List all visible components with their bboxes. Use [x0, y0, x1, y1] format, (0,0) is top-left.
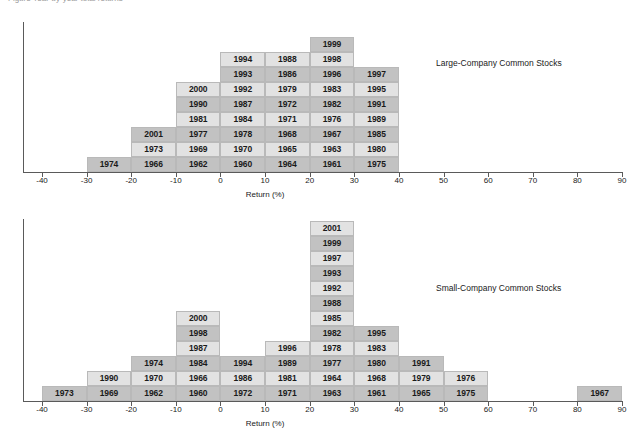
histogram-cell: 1978	[310, 341, 355, 356]
histogram-cell: 1978	[220, 127, 265, 142]
x-axis-tick-label: 50	[429, 405, 459, 415]
histogram-cell: 1977	[310, 356, 355, 371]
chart-small-company-common-stocks: Small-Company Common Stocks -40-30-20-10…	[0, 205, 629, 435]
histogram-cell: 1961	[354, 386, 399, 401]
x-axis-tick-label: 70	[518, 405, 548, 415]
histogram-cell: 1976	[310, 112, 355, 127]
histogram-cell: 1986	[220, 371, 265, 386]
histogram-cell: 1994	[220, 356, 265, 371]
x-axis-tick-label: 50	[429, 176, 459, 186]
x-axis-tick-label: -10	[161, 176, 191, 186]
histogram-cell: 1983	[310, 82, 355, 97]
x-axis-tick-label: 60	[473, 176, 503, 186]
histogram-cell: 1966	[176, 371, 221, 386]
x-axis-tick-label: 60	[473, 405, 503, 415]
histogram-cell: 1980	[354, 142, 399, 157]
series-label-large-company: Large-Company Common Stocks	[436, 58, 562, 68]
histogram-cell: 1965	[399, 386, 444, 401]
histogram-cell: 1973	[42, 386, 87, 401]
histogram-cell: 2000	[176, 82, 221, 97]
histogram-cell: 1970	[131, 371, 176, 386]
x-axis-tick-label: 0	[205, 405, 235, 415]
histogram-cell: 1968	[354, 371, 399, 386]
histogram-cell: 1997	[354, 67, 399, 82]
histogram-cell: 1992	[220, 82, 265, 97]
histogram-cell: 1971	[265, 386, 310, 401]
x-axis-tick-label: -10	[161, 405, 191, 415]
histogram-cell: 1981	[265, 371, 310, 386]
histogram-cell: 1972	[220, 386, 265, 401]
histogram-cell: 1968	[265, 127, 310, 142]
x-axis-tick-label: 40	[384, 405, 414, 415]
x-axis-tick-label: 20	[295, 176, 325, 186]
histogram-cell: 1972	[265, 97, 310, 112]
plot-area-chart2: Small-Company Common Stocks -40-30-20-10…	[0, 205, 629, 435]
histogram-cell: 1960	[176, 386, 221, 401]
histogram-cell: 1989	[265, 356, 310, 371]
histogram-cell: 1961	[310, 157, 355, 172]
x-axis-tick-label: 40	[384, 176, 414, 186]
histogram-cell: 1990	[87, 371, 132, 386]
histogram-cell: 1997	[310, 251, 355, 266]
histogram-cell: 1970	[220, 142, 265, 157]
histogram-cell: 1998	[176, 326, 221, 341]
histogram-cell: 1962	[176, 157, 221, 172]
histogram-cell: 1981	[176, 112, 221, 127]
histogram-cell: 1967	[577, 386, 622, 401]
histogram-cell: 1960	[220, 157, 265, 172]
histogram-cell: 1996	[310, 67, 355, 82]
histogram-cell: 1964	[265, 157, 310, 172]
histogram-cell: 1988	[265, 52, 310, 67]
x-axis-tick-label: 70	[518, 176, 548, 186]
histogram-cell: 1998	[310, 52, 355, 67]
x-axis-tick-label: -20	[116, 176, 146, 186]
histogram-cell: 1982	[310, 97, 355, 112]
histogram-cell: 1993	[220, 67, 265, 82]
histogram-cell: 1974	[87, 157, 132, 172]
x-axis-tick-label: -40	[27, 176, 57, 186]
x-axis-tick-label: -40	[27, 405, 57, 415]
histogram-cell: 1974	[131, 356, 176, 371]
histogram-cell: 2000	[176, 311, 221, 326]
histogram-cell: 1967	[310, 127, 355, 142]
histogram-cell: 1973	[131, 142, 176, 157]
histogram-cell: 1984	[220, 112, 265, 127]
histogram-cell: 2001	[310, 221, 355, 236]
histogram-cell: 1964	[310, 371, 355, 386]
x-axis-tick-label: 0	[205, 176, 235, 186]
histogram-cell: 1982	[310, 326, 355, 341]
chart-large-company-common-stocks: Figure Year-by-year total returns Large-…	[0, 0, 629, 205]
histogram-cell: 1962	[131, 386, 176, 401]
histogram-cell: 1988	[310, 296, 355, 311]
histogram-cell: 1991	[399, 356, 444, 371]
histogram-cell: 1979	[265, 82, 310, 97]
histogram-cell: 1986	[265, 67, 310, 82]
y-axis	[23, 22, 24, 172]
histogram-cell: 1995	[354, 326, 399, 341]
series-label-small-company: Small-Company Common Stocks	[436, 283, 561, 293]
x-axis-tick-label: -20	[116, 405, 146, 415]
histogram-cell: 1987	[176, 341, 221, 356]
histogram-cell: 1969	[87, 386, 132, 401]
y-axis	[23, 219, 24, 401]
histogram-cell: 1965	[265, 142, 310, 157]
x-axis-title: Return (%)	[205, 419, 325, 428]
plot-area-chart1: Figure Year-by-year total returns Large-…	[0, 0, 629, 205]
histogram-cell: 1995	[354, 82, 399, 97]
x-axis-tick-label: 90	[607, 176, 629, 186]
histogram-cell: 1999	[310, 37, 355, 52]
histogram-cell: 1971	[265, 112, 310, 127]
x-axis-tick-label: 30	[339, 405, 369, 415]
x-axis-tick-label: 80	[562, 176, 592, 186]
histogram-cell: 1996	[265, 341, 310, 356]
x-axis-tick-label: 30	[339, 176, 369, 186]
x-axis-title: Return (%)	[205, 190, 325, 199]
x-axis-tick-label: 80	[562, 405, 592, 415]
histogram-cell: 1994	[220, 52, 265, 67]
histogram-cell: 1963	[310, 142, 355, 157]
histogram-cell: 1966	[131, 157, 176, 172]
histogram-cell: 1963	[310, 386, 355, 401]
histogram-cell: 1969	[176, 142, 221, 157]
x-axis-tick-label: -30	[72, 405, 102, 415]
x-axis-tick-label: 10	[250, 405, 280, 415]
